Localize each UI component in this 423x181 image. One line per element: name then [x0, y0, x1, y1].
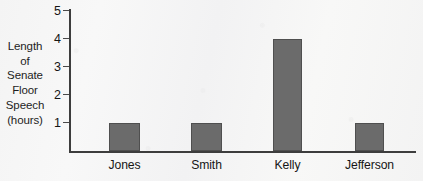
bar-smith[interactable] — [191, 123, 222, 151]
x-tick-label-kelly: Kelly — [275, 158, 301, 172]
y-axis-label-line-5: Speech — [0, 98, 50, 113]
y-axis-label: Length of Senate Floor Speech (hours) — [0, 39, 50, 127]
x-tick-label-jefferson: Jefferson — [345, 158, 394, 172]
bar-kelly[interactable] — [273, 39, 302, 151]
y-axis-line — [69, 9, 71, 153]
y-tick-mark-5 — [63, 10, 69, 12]
bar-jefferson[interactable] — [355, 123, 384, 151]
plot-area: 1 2 3 4 5 Jones Smith Kelly Jefferson — [69, 9, 416, 153]
y-axis-label-line-2: of — [0, 54, 50, 69]
x-axis-line — [69, 151, 416, 153]
y-axis-label-line-6: (hours) — [0, 113, 50, 128]
y-tick-label-4: 4 — [54, 32, 61, 46]
y-tick-mark-4 — [63, 38, 69, 40]
y-axis-label-line-3: Senate — [0, 68, 50, 83]
y-tick-mark-3 — [63, 66, 69, 68]
y-tick-mark-1 — [63, 122, 69, 124]
y-tick-label-2: 2 — [54, 88, 61, 102]
y-tick-label-5: 5 — [54, 4, 61, 18]
y-axis-label-line-1: Length — [0, 39, 50, 54]
y-tick-label-1: 1 — [54, 116, 61, 130]
y-tick-label-3: 3 — [54, 60, 61, 74]
y-tick-mark-2 — [63, 94, 69, 96]
y-axis-label-line-4: Floor — [0, 83, 50, 98]
x-tick-label-smith: Smith — [191, 158, 222, 172]
x-tick-label-jones: Jones — [108, 158, 140, 172]
bar-jones[interactable] — [109, 123, 140, 151]
bar-chart-figure: Length of Senate Floor Speech (hours) 1 … — [0, 0, 423, 181]
